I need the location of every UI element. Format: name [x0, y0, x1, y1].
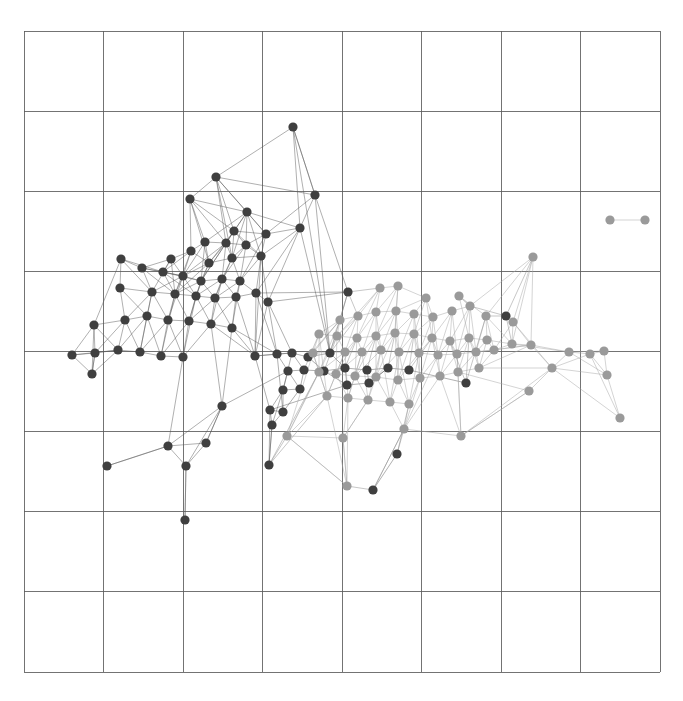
graph-node[interactable] — [528, 252, 537, 261]
graph-node[interactable] — [394, 347, 403, 356]
graph-node[interactable] — [507, 339, 516, 348]
graph-node[interactable] — [204, 258, 213, 267]
graph-node[interactable] — [261, 229, 270, 238]
graph-node[interactable] — [180, 515, 189, 524]
graph-node[interactable] — [453, 367, 462, 376]
graph-node[interactable] — [251, 288, 260, 297]
graph-node[interactable] — [116, 254, 125, 263]
graph-node[interactable] — [564, 347, 573, 356]
graph-node[interactable] — [489, 345, 498, 354]
graph-node[interactable] — [371, 331, 380, 340]
graph-node[interactable] — [428, 312, 437, 321]
graph-node[interactable] — [350, 371, 359, 380]
graph-node[interactable] — [217, 274, 226, 283]
graph-node[interactable] — [265, 405, 274, 414]
graph-node[interactable] — [447, 306, 456, 315]
graph-node[interactable] — [181, 461, 190, 470]
graph-node[interactable] — [115, 283, 124, 292]
graph-node[interactable] — [342, 481, 351, 490]
graph-node[interactable] — [256, 251, 265, 260]
graph-node[interactable] — [201, 438, 210, 447]
graph-node[interactable] — [404, 399, 413, 408]
graph-node[interactable] — [526, 340, 535, 349]
graph-node[interactable] — [263, 297, 272, 306]
graph-node[interactable] — [353, 311, 362, 320]
graph-node[interactable] — [352, 333, 361, 342]
graph-node[interactable] — [385, 397, 394, 406]
graph-node[interactable] — [229, 226, 238, 235]
graph-node[interactable] — [392, 449, 401, 458]
graph-node[interactable] — [454, 291, 463, 300]
graph-node[interactable] — [67, 350, 76, 359]
graph-node[interactable] — [371, 307, 380, 316]
graph-node[interactable] — [272, 349, 281, 358]
graph-node[interactable] — [278, 407, 287, 416]
graph-node[interactable] — [163, 315, 172, 324]
graph-node[interactable] — [599, 346, 608, 355]
graph-node[interactable] — [465, 301, 474, 310]
graph-node[interactable] — [474, 363, 483, 372]
graph-node[interactable] — [501, 311, 510, 320]
graph-node[interactable] — [376, 345, 385, 354]
graph-node[interactable] — [602, 370, 611, 379]
graph-node[interactable] — [147, 287, 156, 296]
graph-node[interactable] — [391, 306, 400, 315]
graph-node[interactable] — [342, 380, 351, 389]
graph-node[interactable] — [227, 253, 236, 262]
graph-node[interactable] — [221, 238, 230, 247]
graph-node[interactable] — [340, 347, 349, 356]
graph-node[interactable] — [191, 291, 200, 300]
graph-node[interactable] — [250, 351, 259, 360]
graph-node[interactable] — [409, 309, 418, 318]
graph-node[interactable] — [314, 329, 323, 338]
graph-node[interactable] — [90, 348, 99, 357]
graph-node[interactable] — [399, 424, 408, 433]
graph-node[interactable] — [338, 433, 347, 442]
graph-node[interactable] — [89, 320, 98, 329]
graph-node[interactable] — [314, 367, 323, 376]
graph-node[interactable] — [178, 352, 187, 361]
graph-node[interactable] — [456, 431, 465, 440]
graph-node[interactable] — [170, 289, 179, 298]
graph-node[interactable] — [308, 348, 317, 357]
graph-node[interactable] — [357, 347, 366, 356]
graph-node[interactable] — [310, 190, 319, 199]
graph-node[interactable] — [241, 240, 250, 249]
graph-node[interactable] — [332, 331, 341, 340]
graph-node[interactable] — [415, 373, 424, 382]
graph-node[interactable] — [427, 333, 436, 342]
graph-node[interactable] — [283, 366, 292, 375]
graph-node[interactable] — [206, 319, 215, 328]
graph-node[interactable] — [393, 281, 402, 290]
graph-node[interactable] — [435, 371, 444, 380]
graph-node[interactable] — [524, 386, 533, 395]
graph-node[interactable] — [217, 401, 226, 410]
graph-node[interactable] — [585, 349, 594, 358]
graph-node[interactable] — [383, 363, 392, 372]
graph-node[interactable] — [615, 413, 624, 422]
graph-node[interactable] — [267, 420, 276, 429]
graph-node[interactable] — [482, 335, 491, 344]
graph-node[interactable] — [120, 315, 129, 324]
graph-node[interactable] — [231, 292, 240, 301]
graph-node[interactable] — [325, 348, 334, 357]
graph-node[interactable] — [464, 333, 473, 342]
graph-node[interactable] — [364, 378, 373, 387]
graph-node[interactable] — [166, 254, 175, 263]
graph-node[interactable] — [471, 347, 480, 356]
graph-node[interactable] — [322, 391, 331, 400]
graph-node[interactable] — [282, 431, 291, 440]
graph-node[interactable] — [211, 172, 220, 181]
graph-node[interactable] — [287, 348, 296, 357]
graph-node[interactable] — [288, 122, 297, 131]
graph-node[interactable] — [414, 348, 423, 357]
graph-node[interactable] — [640, 215, 649, 224]
graph-node[interactable] — [375, 283, 384, 292]
graph-node[interactable] — [363, 395, 372, 404]
graph-node[interactable] — [393, 375, 402, 384]
graph-node[interactable] — [227, 323, 236, 332]
graph-node[interactable] — [135, 347, 144, 356]
graph-node[interactable] — [409, 329, 418, 338]
graph-node[interactable] — [343, 393, 352, 402]
graph-node[interactable] — [184, 316, 193, 325]
